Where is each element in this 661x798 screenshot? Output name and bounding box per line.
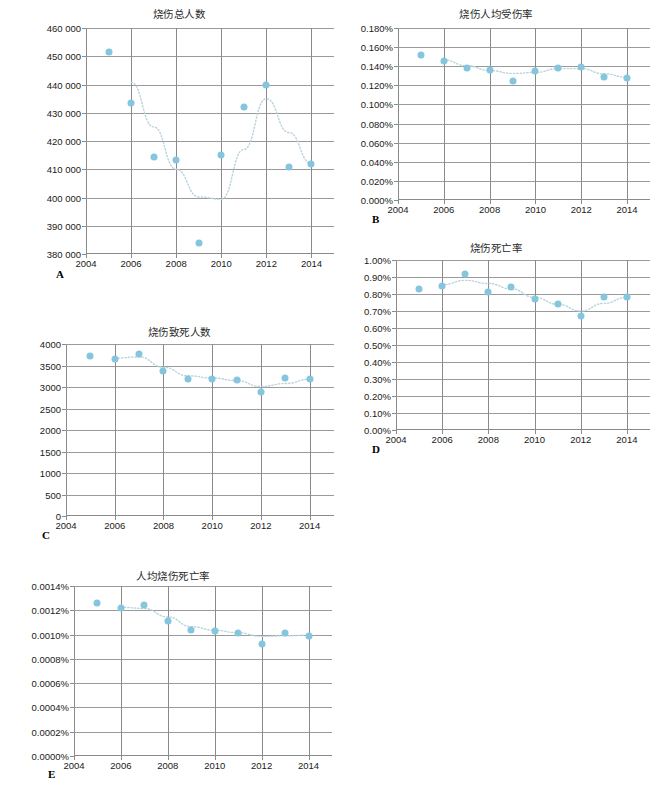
- data-point-marker: [211, 627, 218, 634]
- y-axis-tick-label: 420 000: [47, 136, 86, 147]
- y-axis-tick-label: 460 000: [47, 23, 86, 34]
- x-axis-tick-label: 2012: [251, 756, 272, 771]
- x-axis-tick-label: 2004: [63, 756, 84, 771]
- trendline: [398, 28, 650, 200]
- y-axis-tick-label: 430 000: [47, 107, 86, 118]
- x-axis-tick-label: 2014: [298, 756, 319, 771]
- trendline: [86, 28, 334, 254]
- data-point-marker: [258, 641, 265, 648]
- y-axis-tick-label: 0.80%: [364, 289, 396, 300]
- data-point-marker: [209, 376, 216, 383]
- plot-area-e: 0.0000%0.0002%0.0004%0.0006%0.0008%0.001…: [74, 586, 332, 756]
- x-axis-tick-label: 2004: [75, 254, 96, 269]
- data-point-marker: [577, 313, 584, 320]
- data-point-marker: [508, 284, 515, 291]
- y-axis-tick-label: 0.10%: [364, 408, 396, 419]
- trendline: [66, 344, 334, 516]
- panel-letter-a: A: [56, 268, 64, 280]
- x-axis-tick-label: 2006: [104, 516, 125, 531]
- data-point-marker: [623, 294, 630, 301]
- data-point-marker: [531, 296, 538, 303]
- x-axis-tick-label: 2012: [250, 516, 271, 531]
- x-axis-tick-label: 2008: [157, 756, 178, 771]
- data-point-marker: [240, 103, 247, 110]
- chart-title-d: 烧伤死亡率: [336, 240, 656, 255]
- x-axis-tick-label: 2010: [211, 254, 232, 269]
- y-axis-tick-label: 1000: [40, 468, 66, 479]
- y-axis-tick-label: 0.0004%: [31, 702, 74, 713]
- data-point-marker: [306, 376, 313, 383]
- data-point-marker: [308, 160, 315, 167]
- panel-e: 人均烧伤死亡率 0.0000%0.0002%0.0004%0.0006%0.00…: [8, 568, 338, 793]
- x-axis-tick-label: 2008: [479, 200, 500, 215]
- data-point-marker: [184, 375, 191, 382]
- panel-letter-b: B: [372, 213, 379, 225]
- data-point-marker: [117, 604, 124, 611]
- y-axis-tick-label: 0.50%: [364, 340, 396, 351]
- data-point-marker: [128, 100, 135, 107]
- y-axis-tick-label: 0.30%: [364, 374, 396, 385]
- y-axis-tick-label: 0.140%: [361, 61, 398, 72]
- x-axis-tick-label: 2012: [571, 200, 592, 215]
- y-axis-tick-label: 0.0014%: [31, 581, 74, 592]
- y-axis-tick-label: 0.60%: [364, 323, 396, 334]
- y-axis-tick-label: 2500: [40, 403, 66, 414]
- x-axis-tick-label: 2006: [433, 200, 454, 215]
- chart-title-a: 烧伤总人数: [20, 6, 338, 21]
- data-point-marker: [235, 630, 242, 637]
- y-axis-tick-label: 0.90%: [364, 272, 396, 283]
- y-axis-tick-label: 440 000: [47, 79, 86, 90]
- data-point-marker: [257, 388, 264, 395]
- panel-a: 烧伤总人数 380 000390 000400 000410 000420 00…: [20, 6, 338, 296]
- x-axis-tick-label: 2006: [432, 430, 453, 445]
- y-axis-tick-label: 0.120%: [361, 80, 398, 91]
- x-axis-tick-label: 2006: [121, 254, 142, 269]
- y-axis-tick-label: 0.160%: [361, 42, 398, 53]
- x-axis-tick-label: 2010: [524, 430, 545, 445]
- data-point-marker: [600, 294, 607, 301]
- data-point-marker: [305, 632, 312, 639]
- y-axis-tick-label: 0.080%: [361, 118, 398, 129]
- data-point-marker: [111, 355, 118, 362]
- data-point-marker: [485, 289, 492, 296]
- trendline: [74, 586, 332, 756]
- data-point-marker: [263, 82, 270, 89]
- chart-title-c: 烧伤致死人数: [20, 324, 338, 339]
- y-axis-tick-label: 450 000: [47, 51, 86, 62]
- y-axis-tick-label: 500: [45, 489, 66, 500]
- x-axis-tick-label: 2004: [385, 430, 406, 445]
- data-point-marker: [150, 153, 157, 160]
- data-point-marker: [532, 68, 539, 75]
- data-point-marker: [555, 65, 562, 72]
- x-axis-tick-label: 2004: [55, 516, 76, 531]
- data-point-marker: [440, 58, 447, 65]
- data-point-marker: [554, 301, 561, 308]
- x-axis-tick-label: 2010: [525, 200, 546, 215]
- y-axis-tick-label: 400 000: [47, 192, 86, 203]
- y-axis-tick-label: 0.0012%: [31, 605, 74, 616]
- x-axis-tick-label: 2014: [617, 200, 638, 215]
- data-point-marker: [624, 74, 631, 81]
- y-axis-tick-label: 0.20%: [364, 391, 396, 402]
- panel-c: 烧伤致死人数 050010001500200025003000350040002…: [20, 324, 338, 554]
- x-axis-tick-label: 2012: [256, 254, 277, 269]
- x-axis-tick-label: 2012: [570, 430, 591, 445]
- y-axis-tick-label: 0.100%: [361, 99, 398, 110]
- data-point-marker: [160, 368, 167, 375]
- data-point-marker: [218, 151, 225, 158]
- y-axis-tick-label: 3000: [40, 382, 66, 393]
- y-axis-tick-label: 2000: [40, 425, 66, 436]
- data-point-marker: [601, 73, 608, 80]
- y-axis-tick-label: 1500: [40, 446, 66, 457]
- y-axis-tick-label: 0.180%: [361, 23, 398, 34]
- data-point-marker: [417, 51, 424, 58]
- y-axis-tick-label: 0.70%: [364, 306, 396, 317]
- panel-d: 烧伤死亡率 0.00%0.10%0.20%0.30%0.40%0.50%0.60…: [336, 240, 656, 470]
- data-point-marker: [439, 282, 446, 289]
- data-point-marker: [578, 64, 585, 71]
- y-axis-tick-label: 410 000: [47, 164, 86, 175]
- x-axis-tick-label: 2004: [387, 200, 408, 215]
- y-axis-tick-label: 0.0008%: [31, 653, 74, 664]
- y-axis-tick-label: 1.00%: [364, 255, 396, 266]
- x-axis-tick-label: 2014: [616, 430, 637, 445]
